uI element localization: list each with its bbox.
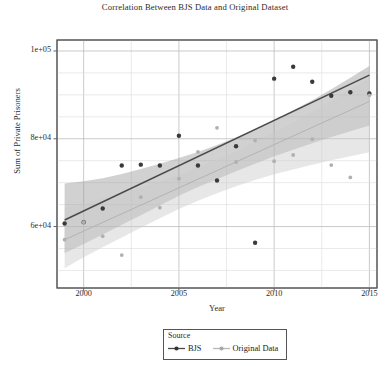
x-tick-label: 2000	[61, 289, 107, 298]
axis-tick-labels: 6e+048e+041e+052000200520102015	[0, 0, 390, 366]
y-tick-label: 8e+04	[5, 133, 51, 142]
legend: Source BJS Original Data	[163, 329, 287, 360]
legend-entry-bjs[interactable]: BJS	[168, 344, 202, 353]
legend-entries: BJS Original Data	[168, 344, 278, 353]
y-tick-label: 1e+05	[5, 45, 51, 54]
legend-entry-original-data[interactable]: Original Data	[213, 344, 279, 353]
y-tick-label: 6e+04	[5, 221, 51, 230]
x-tick-label: 2010	[251, 289, 297, 298]
legend-marker-original-data	[213, 344, 230, 353]
legend-label-original-data: Original Data	[233, 344, 279, 353]
x-tick-label: 2005	[156, 289, 202, 298]
chart-figure: Correlation Between BJS Data and Origina…	[0, 0, 390, 366]
legend-marker-bjs	[168, 344, 185, 353]
legend-title: Source	[168, 331, 190, 340]
legend-label-bjs: BJS	[188, 344, 202, 353]
x-tick-label: 2015	[346, 289, 390, 298]
